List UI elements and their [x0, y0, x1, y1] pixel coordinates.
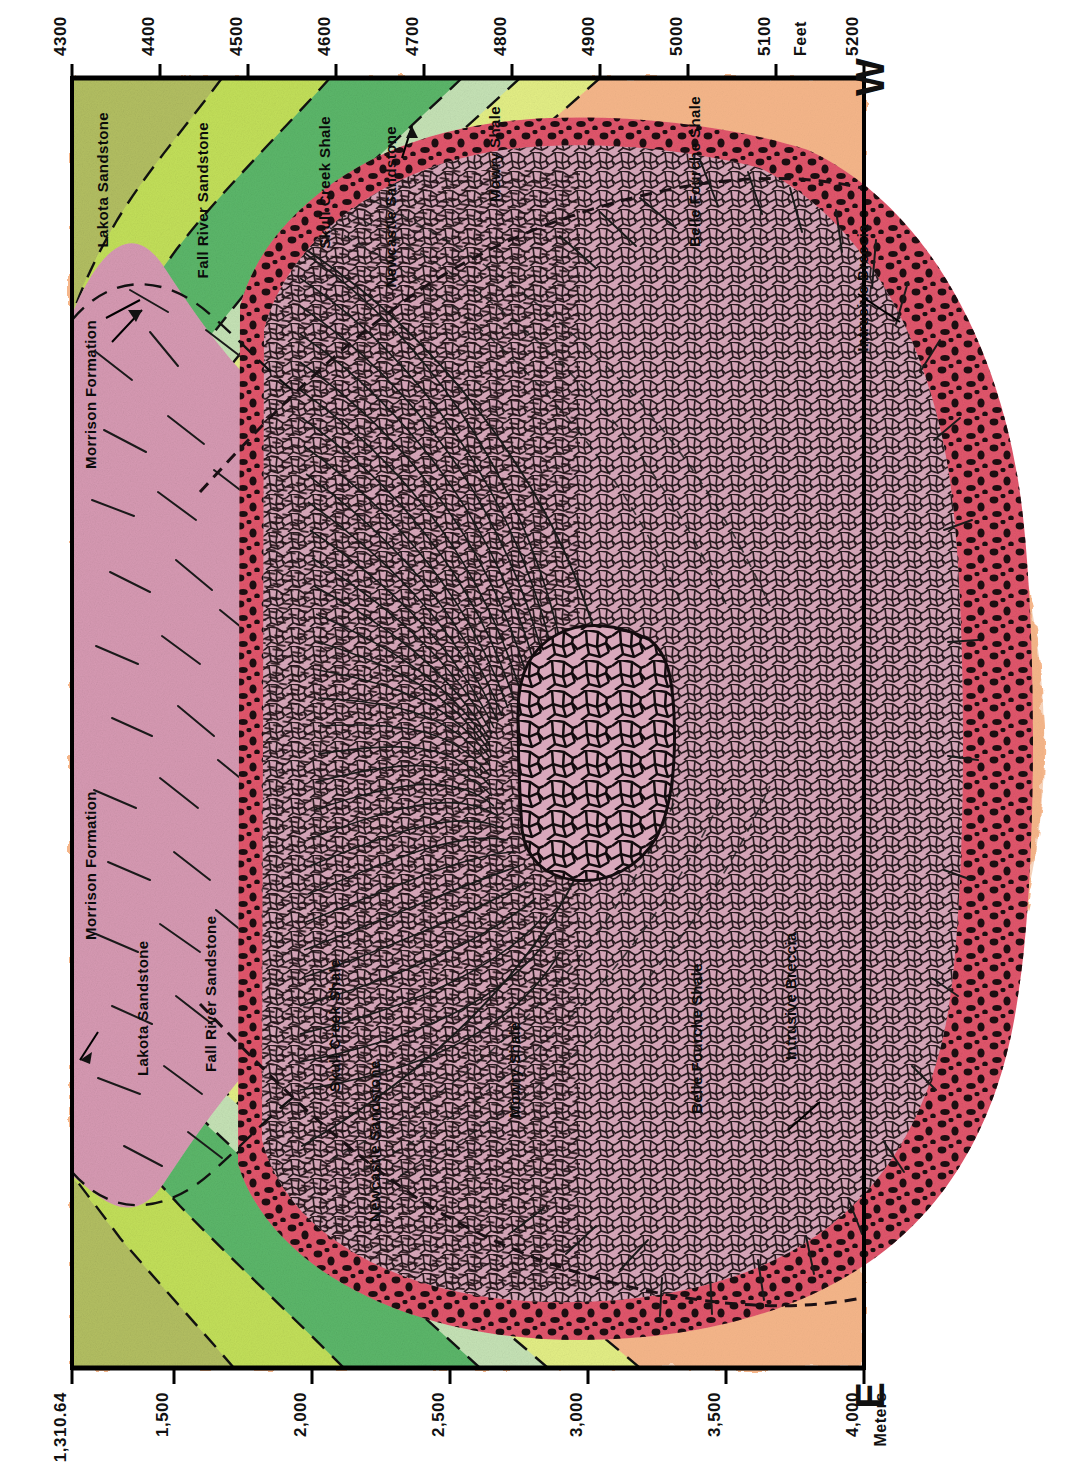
label-fall-river-sandstone-bottom: Fall River Sandstone [202, 916, 219, 1072]
compass-east-marker: E [848, 1382, 892, 1409]
label-skull-creek-shale-top: Skull Creek Shale [316, 116, 333, 249]
feet-tick-label: 4400 [139, 16, 158, 56]
label-lakota-sandstone-bottom: Lakota Sandstone [134, 940, 151, 1076]
feet-tick-label: 5200 [843, 16, 862, 56]
label-skull-creek-shale-bottom: Skull Creek Shale [326, 959, 343, 1092]
label-mowry-shale-bottom: Mowry Shale [506, 1022, 523, 1118]
label-fall-river-sandstone-top: Fall River Sandstone [194, 122, 211, 278]
axis-unit-feet: Feet [792, 21, 809, 56]
label-intrusive-breccia-top: Intrusive Breccia [854, 224, 871, 352]
cross-section-canvas: 4300 4400 4500 4600 4700 4800 4900 5000 … [0, 0, 1070, 1475]
meters-tick-label: 2,000 [291, 1392, 310, 1437]
label-intrusive-breccia-bottom: Intrusive Breccia [782, 932, 799, 1060]
meters-tick-label: 1,310.64 [51, 1392, 70, 1462]
label-morrison-formation-bottom: Morrison Formation [82, 791, 99, 940]
feet-tick-label: 4900 [579, 16, 598, 56]
cross-section-figure: 4300 4400 4500 4600 4700 4800 4900 5000 … [0, 0, 1070, 1475]
feet-tick-label: 4500 [227, 16, 246, 56]
label-morrison-formation-top: Morrison Formation [82, 320, 99, 469]
label-belle-fourche-shale-bottom: Belle Fourche Shale [688, 963, 705, 1114]
unit-morrison-formation [72, 243, 264, 1207]
feet-tick-label: 5100 [755, 16, 774, 56]
label-belle-fourche-shale-top: Belle Fourche Shale [686, 96, 703, 247]
feet-tick-label: 4800 [491, 16, 510, 56]
meters-tick-label: 3,000 [567, 1392, 586, 1437]
feet-tick-label: 4700 [403, 16, 422, 56]
label-mowry-shale-top: Mowry Shale [486, 106, 503, 202]
feet-tick-label: 4300 [51, 16, 70, 56]
meters-tick-label: 3,500 [705, 1392, 724, 1437]
label-lakota-sandstone-top: Lakota Sandstone [94, 112, 111, 248]
meters-tick-label: 1,500 [153, 1392, 172, 1437]
meters-tick-label: 2,500 [429, 1392, 448, 1437]
compass-west-marker: W [848, 58, 892, 96]
feet-tick-label: 4600 [315, 16, 334, 56]
feet-tick-label: 5000 [667, 16, 686, 56]
label-newcastle-sandstone-bottom: Newcastle Sandstone [366, 1060, 383, 1222]
label-newcastle-sandstone-top: Newcastle Sandstone [382, 126, 399, 288]
